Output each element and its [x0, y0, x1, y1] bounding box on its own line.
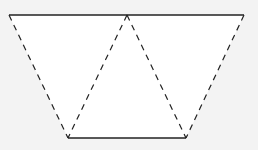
trapezoid-net-diagram [0, 0, 258, 150]
trapezoid-fill [9, 15, 244, 138]
